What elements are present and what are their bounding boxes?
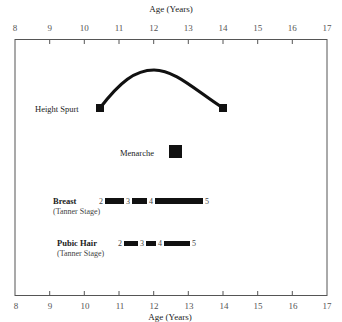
top-tick-14: 14	[219, 23, 229, 33]
pubic-stage-3: 3	[140, 239, 144, 248]
top-axis-title: Age (Years)	[149, 4, 192, 14]
pubic-hair-label: Pubic Hair	[57, 238, 97, 248]
top-tick-16: 16	[288, 23, 298, 33]
breast-bar-4-5	[155, 198, 203, 204]
bottom-axis-title: Age (Years)	[148, 312, 191, 322]
pubic-hair-sublabel: (Tanner Stage)	[57, 249, 105, 258]
height-spurt-end-marker	[219, 104, 227, 112]
pubic-hair-stages: 2 3 4 5	[118, 239, 196, 248]
pubic-stage-2: 2	[118, 239, 122, 248]
breast-sublabel: (Tanner Stage)	[53, 207, 101, 216]
bottom-tick-8: 8	[14, 301, 19, 311]
bottom-tick-16: 16	[289, 301, 299, 311]
bottom-tick-9: 9	[48, 301, 53, 311]
bottom-tick-10: 10	[81, 301, 91, 311]
top-tick-12: 12	[149, 23, 158, 33]
pubic-bar-4-5	[164, 241, 190, 246]
bottom-ticks	[50, 291, 293, 296]
menarche-marker	[169, 145, 182, 158]
height-spurt-curve	[100, 70, 223, 108]
breast-stages: 2 3 4 5	[99, 197, 209, 206]
bottom-tick-labels: 8 9 10 11 12 13 14 15 16 17	[14, 301, 332, 311]
bottom-tick-11: 11	[116, 301, 125, 311]
height-spurt-start-marker	[96, 104, 104, 112]
bottom-tick-13: 13	[185, 301, 195, 311]
breast-bar-3-4	[132, 198, 147, 204]
bottom-tick-17: 17	[323, 301, 333, 311]
top-tick-15: 15	[253, 23, 263, 33]
pubic-bar-2-3	[124, 241, 138, 246]
breast-stage-3: 3	[126, 197, 130, 206]
top-tick-13: 13	[184, 23, 194, 33]
breast-bar-2-3	[105, 198, 124, 204]
top-tick-9: 9	[47, 23, 52, 33]
top-ticks	[50, 40, 293, 45]
puberty-timeline-chart: Age (Years) 8 9 10 11 12 13 14 15 16 17	[0, 0, 342, 322]
breast-stage-5: 5	[205, 197, 209, 206]
bottom-tick-15: 15	[254, 301, 264, 311]
top-tick-17: 17	[323, 23, 333, 33]
top-tick-11: 11	[115, 23, 124, 33]
height-spurt-label: Height Spurt	[35, 104, 79, 114]
breast-stage-2: 2	[99, 197, 103, 206]
pubic-stage-5: 5	[192, 239, 196, 248]
breast-label: Breast	[53, 196, 77, 206]
bottom-tick-14: 14	[220, 301, 230, 311]
bottom-tick-12: 12	[150, 301, 159, 311]
breast-stage-4: 4	[149, 197, 153, 206]
menarche-label: Menarche	[120, 148, 154, 158]
pubic-bar-3-4	[146, 241, 156, 246]
pubic-stage-4: 4	[158, 239, 162, 248]
top-tick-8: 8	[13, 23, 18, 33]
top-tick-10: 10	[80, 23, 90, 33]
top-tick-labels: 8 9 10 11 12 13 14 15 16 17	[13, 23, 332, 33]
